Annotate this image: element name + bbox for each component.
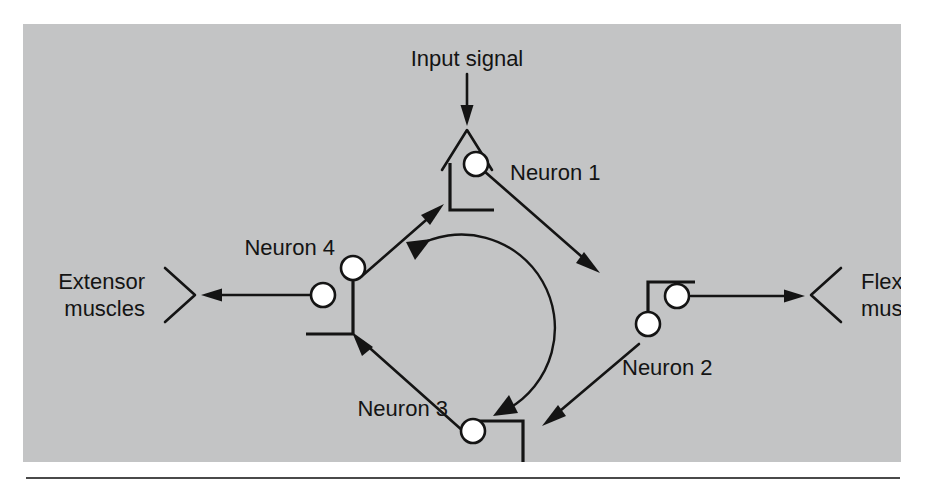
neuron-4-to-extensor-arrowhead (201, 289, 222, 302)
neuron-4-synapse-input[interactable] (341, 256, 365, 280)
figure-root: Input signal Neuron 1 (0, 0, 925, 492)
neuron-3-synapse[interactable] (461, 419, 485, 443)
neuron-1-label: Neuron 1 (510, 160, 601, 185)
flexor-muscles-label-line2: muscles (861, 296, 901, 321)
neuron-3-group[interactable]: Neuron 3 (352, 332, 523, 462)
neuron-3-label: Neuron 3 (357, 396, 448, 421)
input-signal-group: Input signal (411, 46, 524, 126)
neuron-4-synapse-output[interactable] (311, 283, 335, 307)
reverberation-loop-arc (415, 235, 555, 409)
caption-divider-rule (26, 477, 900, 479)
neuron-3-to-neuron-4-arrowhead (352, 332, 373, 356)
flexor-muscles-icon (811, 268, 841, 322)
neuron-1-group[interactable]: Neuron 1 (442, 130, 601, 273)
extensor-muscles-label-line2: muscles (64, 296, 145, 321)
neuron-2-to-flexor-arrowhead (784, 290, 805, 303)
extensor-muscles-group: Extensor muscles (58, 268, 195, 322)
neuron-4-label: Neuron 4 (244, 235, 335, 260)
neuron-4-group[interactable]: Neuron 4 (201, 204, 444, 334)
extensor-muscles-icon (165, 268, 195, 322)
neuron-2-group[interactable]: Neuron 2 (542, 282, 805, 426)
neural-circuit-diagram: Input signal Neuron 1 (23, 24, 901, 462)
flexor-muscles-group: Flexor muscles (811, 268, 901, 322)
neuron-2-synapse-input[interactable] (636, 312, 660, 336)
reverberation-loop-arrowhead-bottom (493, 395, 518, 416)
reverberation-loop-arrowhead-top (406, 239, 431, 260)
extensor-muscles-label-line1: Extensor (58, 269, 145, 294)
reverberation-loop-group (406, 235, 555, 416)
neuron-2-synapse-output[interactable] (665, 284, 689, 308)
input-signal-label: Input signal (411, 46, 524, 71)
neuron-1-synapse[interactable] (464, 152, 488, 176)
flexor-muscles-label-line1: Flexor (861, 269, 901, 294)
neuron-2-label: Neuron 2 (622, 355, 713, 380)
input-signal-arrowhead (461, 105, 474, 126)
